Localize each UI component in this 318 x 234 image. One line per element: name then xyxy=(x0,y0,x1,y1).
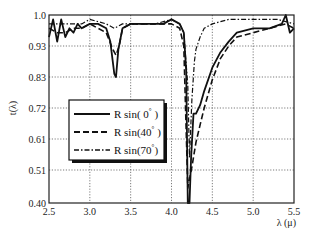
x-tick-label: 3.0 xyxy=(84,206,97,217)
y-axis-label: t(λ) xyxy=(7,101,19,115)
y-tick-label: 0.51 xyxy=(29,165,47,176)
x-tick-label: 5.0 xyxy=(247,206,260,217)
y-tick-label: 0.93 xyxy=(29,41,47,52)
x-axis-label: λ (μ) xyxy=(277,217,296,229)
legend: R sin( 0° )R sin(40° )R sin(70°) xyxy=(69,100,167,163)
x-tick-label: 4.0 xyxy=(165,206,178,217)
y-tick-label: 1.0 xyxy=(34,10,47,21)
y-tick-label: 0.72 xyxy=(29,103,47,114)
y-tick-label: 0.61 xyxy=(29,134,47,145)
x-tick-label: 5.5 xyxy=(288,206,301,217)
legend-label: R sin(40° ) xyxy=(114,125,161,139)
transmission-chart: 0.400.510.610.720.830.931.0 2.53.03.54.0… xyxy=(0,0,318,234)
y-tick-label: 0.83 xyxy=(29,72,47,83)
x-tick-label: 3.5 xyxy=(124,206,137,217)
x-axis-ticks: 2.53.03.54.04.55.05.5 xyxy=(43,206,301,217)
x-tick-label: 2.5 xyxy=(43,206,56,217)
x-tick-label: 4.5 xyxy=(206,206,219,217)
y-axis-ticks: 0.400.510.610.720.830.931.0 xyxy=(29,10,47,209)
legend-label: R sin( 0° ) xyxy=(114,107,158,121)
